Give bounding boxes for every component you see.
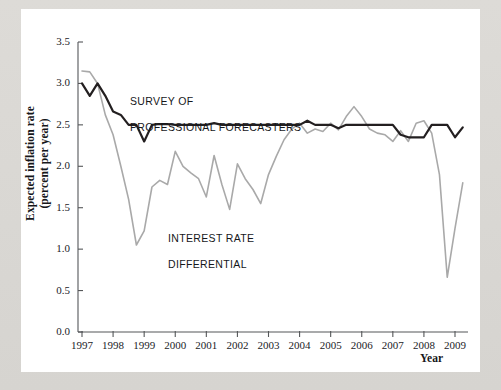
y-tick-label: 2.0 [40,159,70,171]
y-tick-label: 1.0 [40,242,70,254]
series-label-spf-line1: SURVEY OF [130,95,193,107]
y-tick-label: 1.5 [40,201,70,213]
series-label-interest-rate-differential: INTEREST RATE DIFFERENTIAL [168,219,254,271]
y-tick-label: 3.0 [40,76,70,88]
series-label-ird-line2: DIFFERENTIAL [168,258,247,270]
series-label-ird-line1: INTEREST RATE [168,232,254,244]
x-tick-label: 2009 [435,339,475,351]
y-tick-label: 3.5 [40,35,70,47]
figure-page: Expected inflation rate (percent per yea… [0,0,501,390]
series-label-survey-of-professional-forecasters: SURVEY OF PROFESSIONAL FORECASTERS [130,82,301,134]
y-tick-label: 2.5 [40,118,70,130]
series-label-spf-line2: PROFESSIONAL FORECASTERS [130,121,301,133]
y-axis-label-line1: Expected inflation rate [24,106,36,221]
line-chart [0,0,501,390]
y-tick-label: 0.0 [40,325,70,337]
x-axis-label: Year [420,352,443,364]
y-tick-label: 0.5 [40,284,70,296]
